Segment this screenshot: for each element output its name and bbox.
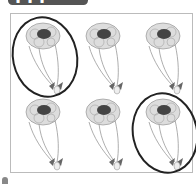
- bouquet-icon: [75, 92, 135, 172]
- bouquet-5[interactable]: [75, 92, 135, 170]
- bouquet-4[interactable]: [15, 92, 75, 170]
- header-label: ▪ ▪ ▪: [8, 0, 88, 5]
- corner-mark: [2, 177, 8, 184]
- bouquet-6[interactable]: [135, 92, 195, 170]
- bouquet-1[interactable]: [15, 16, 75, 94]
- bouquet-icon: [135, 16, 195, 96]
- header-bar: ▪ ▪ ▪: [8, 0, 88, 5]
- puzzle-frame: [10, 13, 193, 173]
- bouquet-icon: [15, 92, 75, 172]
- bouquet-icon: [75, 16, 135, 96]
- bouquet-3[interactable]: [135, 16, 195, 94]
- bouquet-2[interactable]: [75, 16, 135, 94]
